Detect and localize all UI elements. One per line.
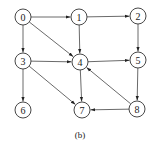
node-3: 3: [15, 53, 31, 69]
node-7: 7: [74, 102, 90, 118]
edge-line: [137, 68, 138, 101]
edge-3-to-7: [29, 66, 75, 104]
node-label: 3: [21, 56, 26, 67]
edge-line: [87, 67, 131, 104]
node-label: 2: [136, 11, 141, 22]
figure-caption: (b): [75, 130, 86, 140]
edge-line: [88, 60, 130, 61]
edge-4-to-5: [88, 60, 130, 61]
node-layer: 012345678: [15, 8, 146, 118]
edge-line: [31, 61, 72, 62]
node-0: 0: [15, 9, 31, 25]
edge-8-to-4: [87, 67, 131, 104]
edge-1-to-2: [87, 16, 130, 17]
node-2: 2: [130, 8, 146, 24]
edge-line: [87, 16, 130, 17]
directed-graph: 012345678 (b): [0, 0, 160, 146]
node-8: 8: [129, 101, 145, 117]
node-4: 4: [72, 54, 88, 70]
node-6: 6: [15, 102, 31, 118]
edge-line: [90, 109, 129, 110]
edge-0-to-4: [29, 22, 73, 57]
edge-4-to-7: [80, 70, 81, 102]
edge-3-to-4: [31, 61, 72, 62]
node-1: 1: [71, 9, 87, 25]
node-label: 1: [77, 12, 82, 23]
edge-line: [80, 70, 81, 102]
node-label: 8: [135, 104, 140, 115]
edge-line: [29, 22, 73, 57]
node-label: 0: [21, 12, 26, 23]
edge-8-to-7: [90, 109, 129, 110]
node-label: 7: [80, 105, 85, 116]
node-label: 5: [136, 55, 141, 66]
edge-5-to-8: [137, 68, 138, 101]
node-label: 4: [78, 57, 83, 68]
node-label: 6: [21, 105, 26, 116]
edge-line: [79, 25, 80, 54]
node-5: 5: [130, 52, 146, 68]
edge-line: [29, 66, 75, 104]
edge-1-to-4: [79, 25, 80, 54]
